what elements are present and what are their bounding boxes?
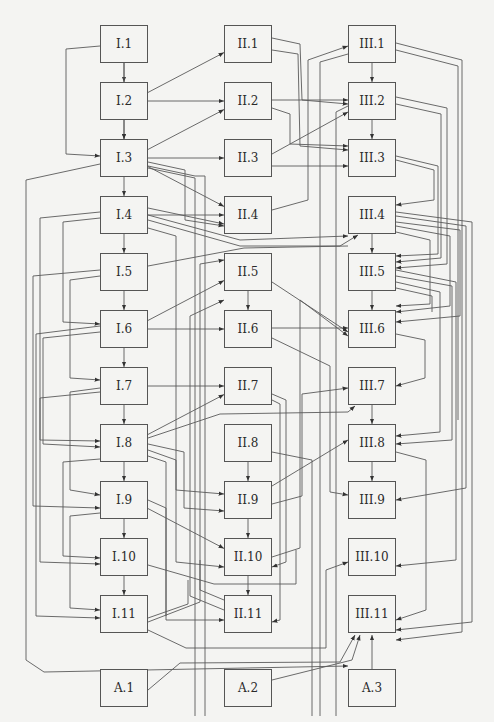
node-iii-6: III.6 [348,310,396,348]
node-ii-10: II.10 [224,538,272,576]
node-i-10: I.10 [100,538,148,576]
node-i-3: I.3 [100,139,148,177]
node-ii-1: II.1 [224,25,272,63]
node-ii-4: II.4 [224,196,272,234]
node-ii-2: II.2 [224,82,272,120]
node-iii-1: III.1 [348,25,396,63]
node-iii-10: III.10 [348,538,396,576]
node-a-3: A.3 [348,669,396,707]
node-a-2: A.2 [224,669,272,707]
node-ii-11: II.11 [224,595,272,633]
node-iii-4: III.4 [348,196,396,234]
node-i-1: I.1 [100,25,148,63]
node-i-6: I.6 [100,310,148,348]
node-i-7: I.7 [100,367,148,405]
node-i-8: I.8 [100,424,148,462]
node-i-2: I.2 [100,82,148,120]
node-ii-7: II.7 [224,367,272,405]
node-iii-3: III.3 [348,139,396,177]
node-iii-2: III.2 [348,82,396,120]
node-ii-3: II.3 [224,139,272,177]
node-iii-8: III.8 [348,424,396,462]
node-iii-11: III.11 [348,595,396,633]
node-i-9: I.9 [100,481,148,519]
node-iii-7: III.7 [348,367,396,405]
diagram-canvas: I.1I.2I.3I.4I.5I.6I.7I.8I.9I.10I.11II.1I… [0,0,494,722]
node-ii-5: II.5 [224,253,272,291]
node-a-1: A.1 [100,669,148,707]
node-i-5: I.5 [100,253,148,291]
node-i-4: I.4 [100,196,148,234]
node-iii-9: III.9 [348,481,396,519]
node-iii-5: III.5 [348,253,396,291]
node-ii-6: II.6 [224,310,272,348]
node-ii-8: II.8 [224,424,272,462]
node-i-11: I.11 [100,595,148,633]
node-ii-9: II.9 [224,481,272,519]
